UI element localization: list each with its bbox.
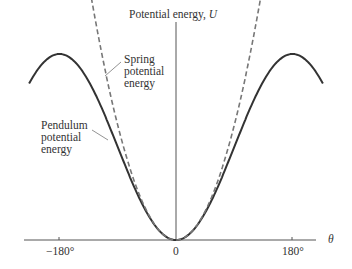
pendulum-label: Pendulum potential energy: [41, 119, 88, 155]
spring-label-line: potential: [124, 65, 164, 77]
spring-label-line: Spring: [124, 53, 164, 65]
tick-label-zero: 0: [173, 245, 179, 257]
spring-label: Spring potential energy: [124, 53, 164, 89]
spring-leader: [105, 62, 121, 76]
y-axis-var: U: [209, 8, 217, 20]
y-axis-title: Potential energy, U: [129, 8, 217, 20]
pendulum-label-line: Pendulum: [41, 119, 88, 131]
pendulum-leader: [92, 130, 108, 140]
x-axis-label: θ: [328, 233, 334, 245]
pendulum-label-line: energy: [41, 143, 88, 155]
tick-label-pos180: 180°: [282, 245, 304, 257]
y-axis-title-text: Potential energy,: [129, 8, 209, 20]
tick-label-neg180: −180°: [46, 245, 74, 257]
pendulum-label-line: potential: [41, 131, 88, 143]
spring-label-line: energy: [124, 77, 164, 89]
